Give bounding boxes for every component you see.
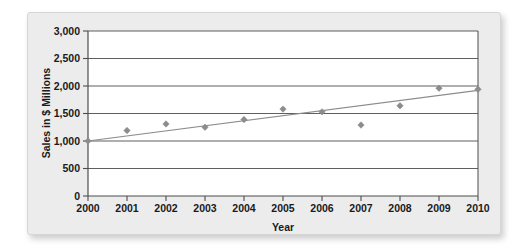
y-tick-label: 0 [74, 190, 80, 202]
y-tick-label: 1,000 [54, 135, 80, 147]
x-tick-label: 2006 [310, 202, 334, 214]
y-tick-label: 3,000 [54, 25, 80, 37]
x-tick-label: 2002 [154, 202, 178, 214]
x-tick-label: 2000 [76, 202, 100, 214]
chart-figure: 05001,0001,5002,0002,5003,000 2000200120… [0, 0, 522, 250]
scatter-plot: 05001,0001,5002,0002,5003,000 2000200120… [0, 0, 522, 250]
x-tick-label: 2001 [115, 202, 139, 214]
y-axis-title: Sales in $ Millions [40, 68, 52, 159]
y-tick-label: 2,500 [54, 52, 80, 64]
x-axis-title: Year [272, 221, 294, 233]
x-tick-label: 2007 [349, 202, 373, 214]
x-tick-label: 2010 [466, 202, 490, 214]
y-tick-label: 2,000 [54, 80, 80, 92]
y-tick-label: 1,500 [54, 107, 80, 119]
y-axis-ticks: 05001,0001,5002,0002,5003,000 [54, 25, 88, 202]
x-tick-label: 2005 [271, 202, 295, 214]
y-tick-label: 500 [62, 162, 80, 174]
x-tick-label: 2004 [232, 202, 256, 214]
x-tick-label: 2003 [193, 202, 217, 214]
x-tick-label: 2009 [427, 202, 451, 214]
x-tick-label: 2008 [388, 202, 412, 214]
x-axis-ticks: 2000200120022003200420052006200720082009… [76, 196, 490, 214]
